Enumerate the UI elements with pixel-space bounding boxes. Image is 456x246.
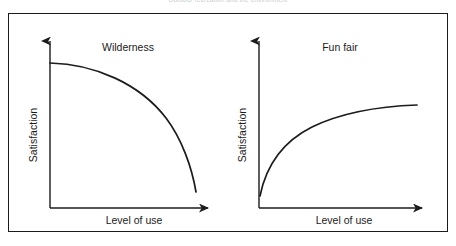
x-axis-label-wilderness: Level of use bbox=[84, 214, 184, 226]
panel-title-fun-fair: Fun fair bbox=[292, 41, 388, 53]
y-axis-label-fun-fair: Satisfaction bbox=[236, 99, 248, 171]
top-caption: Outdoor recreation and the environment bbox=[0, 0, 456, 4]
x-axis-label-fun-fair: Level of use bbox=[294, 214, 394, 226]
panel-title-wilderness: Wilderness bbox=[78, 41, 178, 53]
y-axis-label-wilderness: Satisfaction bbox=[27, 99, 39, 171]
figure-page: Outdoor recreation and the environment W… bbox=[0, 0, 456, 246]
